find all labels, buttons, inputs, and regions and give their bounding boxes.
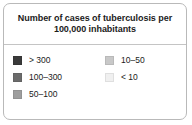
legend-header: Number of cases of tuberculosis per 100,… [4,4,186,44]
legend-item[interactable]: 100–300 [13,69,62,86]
legend-swatch-icon [105,56,114,65]
legend-title: Number of cases of tuberculosis per 100,… [18,13,172,36]
legend-swatch-icon [13,73,22,82]
legend-item-label: 100–300 [29,73,62,82]
legend-item-label: 50–100 [29,90,57,99]
legend-item-label: 10–50 [121,56,145,65]
legend-swatch-icon [13,56,22,65]
legend-body: > 300 100–300 50–100 10–50 < 10 [4,45,186,119]
legend-item[interactable]: > 300 [13,52,62,69]
map-legend-panel: Number of cases of tuberculosis per 100,… [3,3,187,120]
legend-column-right: 10–50 < 10 [105,52,145,86]
legend-item[interactable]: 50–100 [13,86,62,103]
legend-swatch-icon [13,90,22,99]
legend-item-label: > 300 [29,56,51,65]
legend-column-left: > 300 100–300 50–100 [13,52,62,103]
legend-item[interactable]: 10–50 [105,52,145,69]
legend-item-label: < 10 [121,73,138,82]
legend-swatch-icon [105,73,114,82]
legend-item[interactable]: < 10 [105,69,145,86]
